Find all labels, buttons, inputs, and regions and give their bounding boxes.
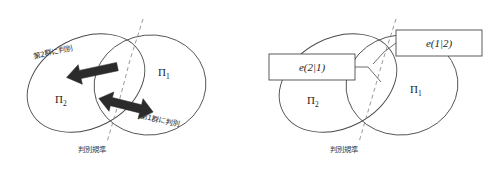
- population-2-label: Π2: [55, 93, 67, 108]
- population-1-ellipse: [89, 29, 211, 140]
- assign-to-group-1-label: 第1群に判別: [140, 111, 181, 129]
- assign-to-group-2-arrow: [64, 57, 119, 87]
- discrimination-rule-panel: Π2 Π1 第2群に判別 第1群に判別 判別規準: [0, 0, 250, 170]
- figure-root: Π2 Π1 第2群に判別 第1群に判別 判別規準 e(2|1) e(1: [0, 0, 499, 170]
- error-2-given-1-box: e(2|1): [269, 54, 355, 80]
- error-1-given-2-label: e(1|2): [426, 37, 453, 50]
- population-1-label: Π1: [410, 83, 422, 98]
- misclassification-probability-panel: e(2|1) e(1|2) Π2 Π1 判別規準: [250, 0, 499, 170]
- error-2-given-1-leader: [355, 67, 381, 82]
- error-2-given-1-label: e(2|1): [299, 61, 326, 74]
- assign-to-group-2-label: 第2群に判別: [32, 43, 73, 61]
- discriminant-boundary-line: [107, 19, 143, 142]
- error-1-given-2-box: e(1|2): [396, 30, 482, 56]
- population-2-label: Π2: [307, 94, 319, 109]
- population-2-ellipse: [10, 14, 162, 152]
- population-1-label: Π1: [158, 66, 170, 81]
- discriminant-boundary-label: 判別規準: [330, 145, 359, 154]
- discriminant-boundary-line: [359, 19, 396, 142]
- discriminant-boundary-label: 判別規準: [78, 145, 107, 154]
